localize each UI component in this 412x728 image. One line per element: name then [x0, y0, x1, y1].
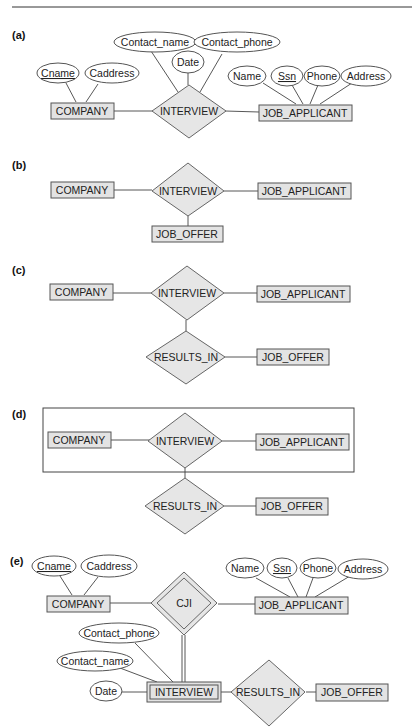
entity-job-offer: JOB_OFFER — [316, 684, 388, 701]
entity-job-offer: JOB_OFFER — [256, 498, 328, 515]
attribute-cname-key: Cname — [37, 63, 79, 83]
entity-label: COMPANY — [53, 434, 105, 446]
attribute-label: Cname — [37, 560, 71, 572]
attribute-name: Name — [228, 66, 266, 86]
relationship-label: INTERVIEW — [158, 287, 216, 299]
attribute-label: Caddress — [87, 560, 132, 572]
entity-label: COMPANY — [56, 105, 108, 117]
attribute-date: Date — [90, 681, 122, 701]
attribute-caddress: Caddress — [81, 555, 137, 577]
relationship-interview: INTERVIEW — [151, 266, 224, 320]
panel-d: (d) COMPANY INTERVIEW JOB_APPLICANT RESU… — [12, 408, 354, 534]
relationship-interview: INTERVIEW — [152, 85, 226, 138]
entity-company: COMPANY — [50, 284, 113, 300]
attribute-label: Contact_phone — [83, 627, 154, 639]
entity-company: COMPANY — [47, 596, 110, 612]
entity-label: COMPANY — [52, 598, 104, 610]
attribute-label: Contact_phone — [201, 36, 272, 48]
panel-e-label: (e) — [10, 555, 24, 567]
attribute-caddress: Caddress — [85, 63, 139, 83]
attribute-label: Date — [177, 56, 199, 68]
panel-e: (e) Cname Caddress Name Ssn — [10, 555, 388, 726]
weak-entity-interview: INTERVIEW — [147, 682, 221, 702]
attribute-ssn-key: Ssn — [271, 66, 303, 86]
attribute-contact-name: Contact_name — [57, 651, 133, 671]
attribute-ssn-key: Ssn — [267, 558, 297, 578]
entity-label: JOB_OFFER — [261, 500, 323, 512]
relationship-label: RESULTS_IN — [154, 351, 218, 363]
entity-label: JOB_APPLICANT — [260, 436, 345, 448]
attribute-label: Phone — [303, 562, 334, 574]
entity-label: COMPANY — [55, 286, 107, 298]
panel-b-label: (b) — [12, 159, 26, 171]
relationship-label: INTERVIEW — [159, 185, 217, 197]
entity-label: JOB_APPLICANT — [262, 185, 347, 197]
attribute-contact-name: Contact_name — [114, 32, 196, 52]
entity-company: COMPANY — [51, 182, 114, 198]
attribute-contact-phone: Contact_phone — [79, 623, 159, 643]
relationship-label: INTERVIEW — [156, 435, 214, 447]
attribute-label: Phone — [307, 70, 338, 82]
entity-job-offer: JOB_OFFER — [257, 349, 329, 365]
attribute-label: Ssn — [273, 562, 291, 574]
attribute-label: Name — [231, 562, 259, 574]
entity-label: JOB_OFFER — [262, 351, 324, 363]
entity-company: COMPANY — [51, 103, 114, 119]
relationship-interview: INTERVIEW — [148, 413, 222, 468]
relationship-label: CJI — [176, 597, 192, 609]
attribute-label: Contact_name — [121, 36, 189, 48]
attribute-label: Name — [233, 70, 261, 82]
panel-c-label: (c) — [12, 264, 26, 276]
relationship-results-in: RESULTS_IN — [231, 660, 305, 726]
entity-label: JOB_APPLICANT — [259, 599, 344, 611]
entity-job-applicant: JOB_APPLICANT — [255, 597, 348, 614]
panel-d-label: (d) — [12, 408, 26, 420]
attribute-label: Contact_name — [61, 655, 129, 667]
entity-job-applicant: JOB_APPLICANT — [258, 183, 351, 199]
panel-a: (a) Contact_name Contact_phone Date Cnam… — [12, 29, 391, 138]
entity-company: COMPANY — [48, 432, 111, 448]
attribute-label: Cname — [41, 67, 75, 79]
attribute-label: Date — [95, 685, 117, 697]
entity-label: JOB_APPLICANT — [261, 288, 346, 300]
relationship-results-in: RESULTS_IN — [146, 331, 225, 384]
panel-c: (c) COMPANY INTERVIEW JOB_APPLICANT RESU… — [12, 264, 350, 384]
panel-a-label: (a) — [12, 29, 26, 41]
attribute-name: Name — [226, 558, 264, 578]
attribute-label: Address — [344, 563, 383, 575]
entity-label: JOB_APPLICANT — [263, 107, 348, 119]
entity-label: JOB_OFFER — [156, 228, 218, 240]
entity-job-applicant: JOB_APPLICANT — [259, 105, 352, 121]
relationship-label: RESULTS_IN — [236, 686, 300, 698]
identifying-relationship-cji: CJI — [151, 572, 217, 635]
relationship-results-in: RESULTS_IN — [145, 478, 224, 534]
entity-job-applicant: JOB_APPLICANT — [256, 434, 349, 450]
entity-label: INTERVIEW — [155, 686, 213, 698]
attribute-date: Date — [172, 51, 204, 73]
relationship-label: RESULTS_IN — [153, 500, 217, 512]
attribute-phone: Phone — [300, 558, 336, 578]
panel-b: (b) COMPANY INTERVIEW JOB_APPLICANT JOB_… — [12, 159, 351, 242]
entity-label: JOB_OFFER — [321, 686, 383, 698]
attribute-cname-key: Cname — [32, 556, 76, 576]
attribute-contact-phone: Contact_phone — [194, 32, 280, 52]
attribute-label: Caddress — [90, 67, 135, 79]
attribute-phone: Phone — [304, 66, 340, 86]
attribute-label: Address — [347, 70, 386, 82]
relationship-interview: INTERVIEW — [152, 163, 224, 216]
entity-job-applicant: JOB_APPLICANT — [257, 286, 350, 302]
attribute-address: Address — [338, 559, 388, 579]
attribute-address: Address — [341, 66, 391, 86]
entity-label: COMPANY — [56, 184, 108, 196]
relationship-label: INTERVIEW — [160, 105, 218, 117]
entity-job-offer: JOB_OFFER — [152, 226, 223, 242]
attribute-label: Ssn — [278, 70, 296, 82]
er-diagram-figure: (a) Contact_name Contact_phone Date Cnam… — [0, 0, 412, 728]
